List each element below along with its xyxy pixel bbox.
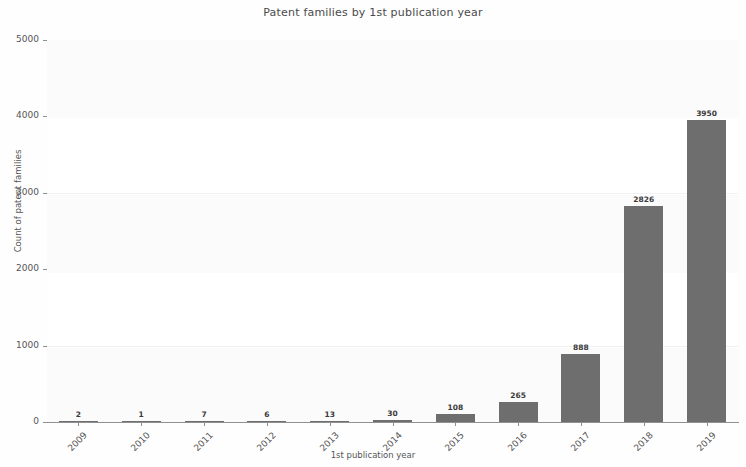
x-tick-mark	[455, 422, 456, 426]
x-tick-mark	[141, 422, 142, 426]
y-tick-mark	[43, 346, 47, 347]
gridline	[47, 40, 738, 41]
x-tick-mark	[644, 422, 645, 426]
y-tick-mark	[43, 193, 47, 194]
x-tick-mark	[267, 422, 268, 426]
bar[interactable]: 2826	[624, 206, 663, 422]
y-axis-tick: 2000	[0, 269, 47, 270]
bar-value-label: 30	[387, 409, 397, 418]
y-tick-label: 5000	[16, 34, 39, 44]
x-tick-mark	[78, 422, 79, 426]
x-tick-mark	[330, 422, 331, 426]
bar-value-label: 888	[573, 343, 589, 352]
bar[interactable]: 108	[436, 414, 475, 422]
bar-value-label: 13	[324, 410, 334, 419]
gridline	[47, 193, 738, 194]
y-axis-label: Count of patent families	[13, 101, 23, 301]
bar[interactable]: 3950	[687, 120, 726, 422]
bar-value-label: 2826	[633, 195, 654, 204]
bar-value-label: 2	[76, 410, 81, 419]
bar-value-label: 1	[139, 410, 144, 419]
x-tick-mark	[581, 422, 582, 426]
y-axis-tick: 0	[0, 422, 47, 423]
x-tick-mark	[393, 422, 394, 426]
gridline	[47, 116, 738, 117]
y-tick-mark	[43, 116, 47, 117]
chart-figure: Patent families by 1st publication year …	[0, 0, 746, 467]
x-tick-mark	[204, 422, 205, 426]
bar[interactable]: 888	[561, 354, 600, 422]
plot-area: 2176133010826588828263950	[47, 40, 738, 422]
y-tick-mark	[43, 40, 47, 41]
background-band	[47, 40, 738, 118]
y-tick-mark	[43, 269, 47, 270]
x-tick-mark	[518, 422, 519, 426]
bar-value-label: 7	[201, 410, 206, 419]
bar[interactable]: 265	[499, 402, 538, 422]
x-axis-label: 1st publication year	[0, 450, 746, 460]
bar-value-label: 265	[510, 391, 526, 400]
y-tick-label: 0	[33, 416, 39, 426]
bar-value-label: 6	[264, 410, 269, 419]
bar-value-label: 3950	[696, 109, 717, 118]
y-tick-label: 1000	[16, 340, 39, 350]
y-tick-mark	[43, 422, 47, 423]
bar-value-label: 108	[447, 403, 463, 412]
y-axis-tick: 5000	[0, 40, 47, 41]
y-axis-tick: 4000	[0, 116, 47, 117]
y-axis-tick: 1000	[0, 346, 47, 347]
x-tick-mark	[707, 422, 708, 426]
y-axis-tick: 3000	[0, 193, 47, 194]
chart-title: Patent families by 1st publication year	[0, 6, 746, 19]
